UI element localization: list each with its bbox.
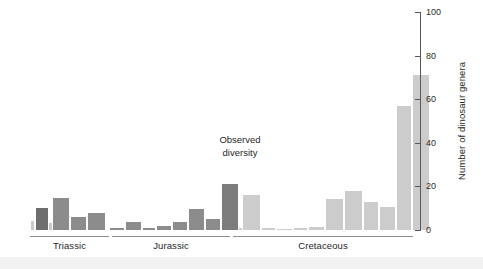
bar [345, 191, 362, 230]
y-tick-label: 20 [426, 182, 436, 191]
bar [222, 184, 238, 230]
period-label: Jurassic [153, 240, 189, 251]
bar [326, 199, 343, 230]
bar [380, 207, 395, 230]
period-rule [233, 236, 413, 237]
bar [53, 198, 69, 230]
y-tick-label: 60 [426, 95, 436, 104]
bar [71, 217, 86, 230]
bar [143, 228, 155, 230]
bar [88, 213, 105, 230]
bar [239, 228, 242, 230]
y-tick-mark [415, 56, 421, 57]
y-axis-spine [420, 12, 421, 230]
bar [126, 222, 141, 230]
bar [294, 228, 307, 230]
y-tick-label: 100 [426, 8, 441, 17]
period-label: Cretaceous [298, 240, 348, 251]
annotation-line-1: Observed [219, 133, 260, 146]
y-axis-label: Number of dinosaur genera [456, 62, 467, 180]
dinosaur-diversity-figure: 020406080100 Number of dinosaur genera T… [0, 0, 483, 269]
y-tick-label: 0 [426, 226, 431, 235]
bar [364, 202, 378, 230]
bar [49, 223, 52, 230]
y-tick-mark [415, 186, 421, 187]
observed-diversity-annotation: Observed diversity [219, 133, 260, 159]
bar [277, 229, 292, 230]
bar [206, 219, 220, 230]
bar [262, 228, 275, 230]
page-bottom-band [0, 257, 483, 269]
bar [189, 209, 204, 230]
period-rule [30, 236, 109, 237]
bar [36, 208, 48, 230]
bar [309, 227, 324, 230]
period-label: Triassic [53, 240, 86, 251]
y-tick-mark [415, 230, 421, 231]
bar [173, 222, 187, 230]
annotation-line-2: diversity [219, 146, 260, 159]
bar [243, 195, 260, 230]
bar [31, 221, 34, 230]
y-tick-label: 40 [426, 139, 436, 148]
bar [110, 228, 124, 230]
y-tick-mark [415, 99, 421, 100]
period-rule [112, 236, 230, 237]
y-tick-label: 80 [426, 52, 436, 61]
y-tick-mark [415, 12, 421, 13]
bar [397, 106, 411, 230]
bar [157, 226, 171, 230]
y-tick-mark [415, 143, 421, 144]
